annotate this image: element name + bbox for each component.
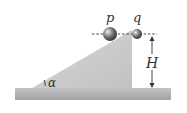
ball-p (103, 27, 117, 41)
label-p: p (106, 10, 115, 25)
label-alpha: α (48, 76, 56, 90)
ball-q (132, 29, 142, 39)
physics-diagram: p q H α (0, 0, 187, 113)
label-q: q (133, 10, 141, 25)
incline (32, 30, 132, 88)
ground (15, 88, 171, 100)
label-H: H (145, 55, 159, 71)
